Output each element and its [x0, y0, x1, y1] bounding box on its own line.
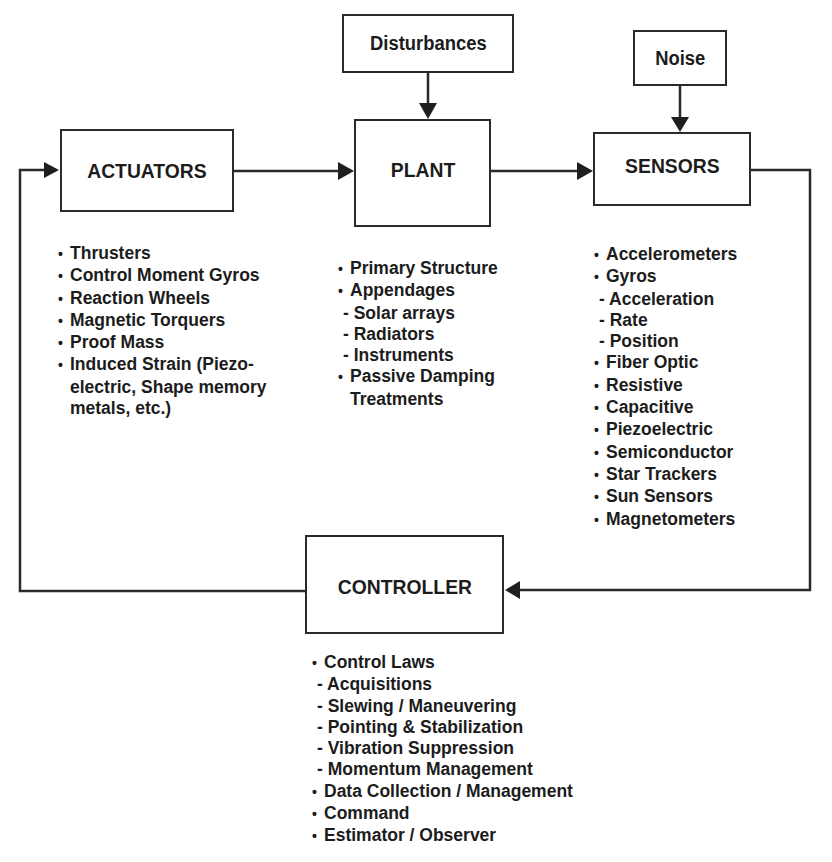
controller-label: CONTROLLER: [337, 575, 471, 599]
plant-list-item: Passive Damping: [338, 366, 498, 388]
sensors-list-item: Star Trackers: [594, 464, 737, 486]
actuators-list-item: Magnetic Torquers: [58, 310, 266, 332]
controller-list-item: Estimator / Observer: [312, 825, 573, 847]
sensors-list-item: Sun Sensors: [594, 486, 737, 508]
actuators-block: ACTUATORS: [60, 129, 234, 212]
controller-list-item: Control Laws: [312, 652, 573, 674]
sensors-list-item: Magnetometers: [594, 509, 737, 531]
plant-list: Primary StructureAppendages- Solar array…: [338, 258, 498, 410]
plant-block: PLANT: [354, 119, 491, 227]
arrow-right-icon: [338, 162, 354, 180]
actuators-list-item: Proof Mass: [58, 332, 266, 354]
controller-block: CONTROLLER: [305, 535, 504, 634]
sensors-list-item: Piezoelectric: [594, 419, 737, 441]
actuators-list-item: Reaction Wheels: [58, 288, 266, 310]
sensors-block: SENSORS: [593, 132, 751, 206]
controller-list-item: Data Collection / Management: [312, 781, 573, 803]
controller-list-item: - Momentum Management: [312, 759, 573, 780]
actuators-list-item: electric, Shape memory: [58, 377, 266, 398]
controller-list-item: - Vibration Suppression: [312, 738, 573, 759]
actuators-list-item: Induced Strain (Piezo-: [58, 354, 266, 376]
controller-list-item: Command: [312, 803, 573, 825]
disturbances-label: Disturbances: [370, 32, 487, 55]
actuators-list: ThrustersControl Moment GyrosReaction Wh…: [58, 243, 266, 419]
sensors-list-item: Capacitive: [594, 397, 737, 419]
sensors-list-item: Gyros: [594, 266, 737, 288]
arrow-left-icon: [505, 581, 520, 599]
arrow-right-icon: [44, 162, 59, 178]
sensors-label: SENSORS: [625, 154, 719, 178]
controller-list-item: - Slewing / Maneuvering: [312, 696, 573, 717]
actuators-list-item: Control Moment Gyros: [58, 265, 266, 287]
sensors-list-item: Semiconductor: [594, 442, 737, 464]
sensors-list-item: - Rate: [594, 310, 737, 331]
plant-label: PLANT: [390, 158, 454, 182]
plant-list-item: - Solar arrays: [338, 303, 498, 324]
sensors-list: AccelerometersGyros- Acceleration- Rate-…: [594, 244, 737, 531]
actuators-list-item: metals, etc.): [58, 398, 266, 419]
disturbances-block: Disturbances: [342, 14, 514, 73]
plant-list-item: Primary Structure: [338, 258, 498, 280]
plant-list-item: Treatments: [338, 389, 498, 410]
arrow-down-icon: [419, 103, 437, 119]
plant-list-item: Appendages: [338, 280, 498, 302]
sensors-list-item: - Acceleration: [594, 289, 737, 310]
arrow-down-icon: [671, 117, 689, 132]
noise-block: Noise: [633, 30, 727, 86]
controller-list-item: - Pointing & Stabilization: [312, 717, 573, 738]
sensors-list-item: Resistive: [594, 375, 737, 397]
sensors-list-item: Accelerometers: [594, 244, 737, 266]
noise-label: Noise: [655, 47, 705, 70]
actuators-list-item: Thrusters: [58, 243, 266, 265]
controller-list: Control Laws- Acquisitions- Slewing / Ma…: [312, 652, 573, 848]
sensors-list-item: - Position: [594, 331, 737, 352]
plant-list-item: - Instruments: [338, 345, 498, 366]
sensors-list-item: Fiber Optic: [594, 352, 737, 374]
arrow-right-icon: [577, 162, 593, 180]
actuators-label: ACTUATORS: [87, 159, 206, 183]
controller-list-item: - Acquisitions: [312, 674, 573, 695]
plant-list-item: - Radiators: [338, 324, 498, 345]
